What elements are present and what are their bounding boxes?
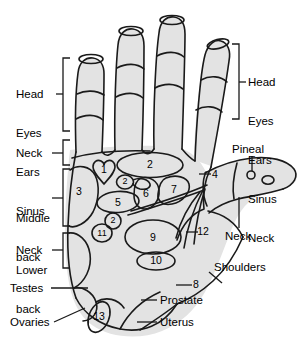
reflexology-hand-chart: 1 2 2 2 3 5 6 7 11 9 10 13 4 12 8 <box>0 0 303 351</box>
label-lower-back-line2: back <box>16 303 47 316</box>
zone-number-11: 11 <box>97 228 106 238</box>
zone-number-4: 4 <box>212 168 218 180</box>
label-shoulders: Shoulders <box>214 261 266 274</box>
zone-number-5: 5 <box>115 196 121 208</box>
label-head-left: Head <box>16 88 45 101</box>
zone-number-10: 10 <box>150 254 162 266</box>
label-lower-back-line1: Lower <box>16 264 47 277</box>
label-ovaries: Ovaries <box>10 316 50 329</box>
finger-middle <box>115 29 144 150</box>
bracket-right-head <box>232 44 239 119</box>
label-neck: Neck <box>16 147 42 160</box>
label-neck-right: Neck <box>248 232 277 245</box>
label-prostate: Prostate <box>160 294 203 307</box>
label-right-head-group: Head Eyes Ears Sinus Neck <box>248 50 277 271</box>
label-eyes-right: Eyes <box>248 115 277 128</box>
label-middle-back-line1: Middle <box>16 212 50 225</box>
label-eyes-left: Eyes <box>16 127 45 140</box>
label-neck-thumb: Neck <box>225 230 251 243</box>
zone-number-2: 2 <box>147 158 153 170</box>
label-pineal: Pineal <box>232 143 264 156</box>
zone-number-9: 9 <box>150 231 156 243</box>
zone-number-13: 13 <box>93 310 105 322</box>
zone-number-7: 7 <box>171 183 177 195</box>
zone-number-3: 3 <box>76 185 82 197</box>
zone-number-2a: 2 <box>122 176 127 186</box>
label-ears-left: Ears <box>16 166 45 179</box>
bracket-left-head <box>63 58 70 131</box>
zone-number-6: 6 <box>143 187 149 199</box>
zone-number-1: 1 <box>101 163 107 175</box>
finger-index <box>76 58 104 152</box>
zone-number-2b: 2 <box>110 215 115 225</box>
leader-ovaries <box>54 308 85 322</box>
finger-little <box>194 41 230 166</box>
label-uterus: Uterus <box>160 316 194 329</box>
label-sinus-right: Sinus <box>248 193 277 206</box>
zone-number-8: 8 <box>193 278 199 290</box>
label-testes: Testes <box>10 282 43 295</box>
zone-number-12: 12 <box>197 225 209 237</box>
label-head-right: Head <box>248 76 277 89</box>
